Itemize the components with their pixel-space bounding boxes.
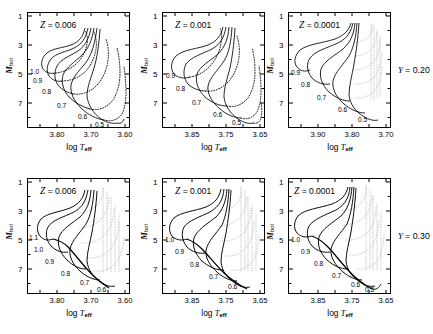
mass-label-0.7: 0.7 xyxy=(192,99,201,106)
row-label-y020: Y = 0.20 xyxy=(398,65,430,75)
yaxis-label-r2c2: Mbol xyxy=(139,224,149,239)
mass-label-0.5: 0.5 xyxy=(358,116,367,123)
panel-r1c3: Z = 0.0001 0.9 0.8 0.7 0.6 0.5 xyxy=(288,12,391,128)
ytick-r2c3-3: 3 xyxy=(279,207,283,216)
mass-label-1.0: 1.0 xyxy=(291,236,300,243)
ytick-r1c3-5: 5 xyxy=(279,70,283,79)
tracks-solid-r1c2 xyxy=(172,27,254,123)
ytick-r2c3-5: 5 xyxy=(279,236,283,245)
xtick-r1c2-2: 3.65 xyxy=(253,130,268,139)
mass-label-0.5: 0.5 xyxy=(232,119,241,126)
mass-label-0.6: 0.6 xyxy=(351,281,360,288)
xaxis-label-r2c1: log Teff xyxy=(66,308,91,318)
xtick-r1c1-2: 3.60 xyxy=(118,130,133,139)
ytick-r1c2-1: 1 xyxy=(153,12,157,21)
mass-label-0.9: 0.9 xyxy=(33,77,42,84)
mass-label-0.8: 0.8 xyxy=(301,81,310,88)
z-value: 0.006 xyxy=(55,20,76,30)
mass-label-0.6: 0.6 xyxy=(213,111,222,118)
z-value: 0.006 xyxy=(55,186,76,196)
mass-label-1.1: 1.1 xyxy=(29,234,38,241)
xtick-r2c2-0: 3.85 xyxy=(185,296,200,305)
ytick-r2c1-3: 3 xyxy=(18,207,22,216)
mass-label-0.6: 0.6 xyxy=(97,286,106,293)
figure-root: Z = 0.006 1.0 0.9 0.8 0.7 0.6 0.5 1 3 5 … xyxy=(0,0,433,334)
mass-label-0.8: 0.8 xyxy=(61,270,70,277)
xaxis-label-r1c3: log Teff xyxy=(327,142,352,152)
ytick-r1c2-3: 3 xyxy=(153,41,157,50)
xtick-r2c3-1: 3.75 xyxy=(345,296,360,305)
ytick-r1c2-7: 7 xyxy=(153,99,157,108)
mass-label-0.7: 0.7 xyxy=(332,272,341,279)
ytick-r2c1-1: 1 xyxy=(18,178,22,187)
row-label-y030: Y = 0.30 xyxy=(398,231,430,241)
xtick-r1c1-0: 3.80 xyxy=(50,130,65,139)
mass-label-0.7: 0.7 xyxy=(317,94,326,101)
panel-z-label-r2c1: Z = 0.006 xyxy=(40,186,76,196)
yaxis-label-r2c1: Mbol xyxy=(4,224,14,239)
ytick-r1c1-7: 7 xyxy=(18,99,22,108)
xtick-r1c2-0: 3.85 xyxy=(185,130,200,139)
xtick-r1c3-1: 3.80 xyxy=(345,130,360,139)
mass-label-0.6: 0.6 xyxy=(228,283,237,290)
panel-r2c1: Z = 0.006 1.1 1.0 0.9 0.8 0.7 0.6 xyxy=(27,178,130,294)
ytick-r2c3-7: 7 xyxy=(279,265,283,274)
mass-label-0.5: 0.5 xyxy=(95,121,104,128)
mass-label-0.8: 0.8 xyxy=(176,85,185,92)
z-value: 0.0001 xyxy=(309,186,335,196)
xtick-r1c1-1: 3.70 xyxy=(84,130,99,139)
xtick-r1c3-0: 3.90 xyxy=(311,130,326,139)
yaxis-label-r1c2: Mbol xyxy=(139,58,149,73)
z-value: 0.001 xyxy=(190,186,211,196)
ytick-r2c2-3: 3 xyxy=(153,207,157,216)
tracks-faint-dotted-r2c3 xyxy=(343,186,384,270)
mass-label-0.8: 0.8 xyxy=(42,88,51,95)
ytick-r1c1-3: 3 xyxy=(18,41,22,50)
mass-label-0.9: 0.9 xyxy=(175,248,184,255)
ytick-r1c1-1: 1 xyxy=(18,12,22,21)
ytick-r1c1-5: 5 xyxy=(18,70,22,79)
ytick-r1c3-7: 7 xyxy=(279,99,283,108)
mass-label-0.7: 0.7 xyxy=(80,279,89,286)
mass-label-0.9: 0.9 xyxy=(45,258,54,265)
mass-label-0.8: 0.8 xyxy=(314,260,323,267)
xtick-r1c3-2: 3.70 xyxy=(379,130,394,139)
xaxis-label-r2c2: log Teff xyxy=(201,308,226,318)
mass-label-1.0: 1.0 xyxy=(34,246,43,253)
tracks-faint-dotted-r2c2 xyxy=(218,187,259,271)
panel-r2c3: Z = 0.0001 1.0 0.9 0.8 0.7 0.6 0.5 xyxy=(288,178,391,294)
xaxis-label-r1c1: log Teff xyxy=(66,142,91,152)
xtick-r2c2-1: 3.75 xyxy=(219,296,234,305)
z-value: 0.001 xyxy=(190,20,211,30)
xtick-r2c1-0: 3.80 xyxy=(50,296,65,305)
tracks-solid-r1c3 xyxy=(295,23,378,120)
ytick-r2c2-7: 7 xyxy=(153,265,157,274)
mass-label-0.9: 0.9 xyxy=(291,69,300,76)
xtick-r2c1-1: 3.70 xyxy=(84,296,99,305)
panel-z-label-r2c3: Z = 0.0001 xyxy=(294,186,335,196)
ytick-r2c3-1: 1 xyxy=(279,178,283,187)
xtick-r1c2-1: 3.75 xyxy=(219,130,234,139)
mass-label-1.0: 1.0 xyxy=(165,236,174,243)
xtick-r2c2-2: 3.65 xyxy=(253,296,268,305)
ytick-r2c2-1: 1 xyxy=(153,178,157,187)
mass-label-1.0: 1.0 xyxy=(30,68,39,75)
mass-label-0.9: 0.9 xyxy=(301,248,310,255)
mass-label-0.8: 0.8 xyxy=(190,261,199,268)
ytick-r1c2-5: 5 xyxy=(153,70,157,79)
panel-r2c2: Z = 0.001 1.0 0.9 0.8 0.7 0.6 xyxy=(162,178,265,294)
mass-label-0.6: 0.6 xyxy=(78,113,87,120)
tracks-faint-dotted-r2c1 xyxy=(77,188,124,272)
ytick-r1c3-1: 1 xyxy=(279,12,283,21)
mass-label-0.7: 0.7 xyxy=(57,102,66,109)
xtick-r2c3-0: 3.85 xyxy=(311,296,326,305)
yaxis-label-r1c1: Mbol xyxy=(4,58,14,73)
mass-label-0.9: 0.9 xyxy=(166,72,175,79)
ytick-r2c1-5: 5 xyxy=(18,236,22,245)
tracks-tail-r1c1 xyxy=(118,119,124,123)
yaxis-label-r2c3: Mbol xyxy=(265,224,275,239)
ytick-r2c2-5: 5 xyxy=(153,236,157,245)
xaxis-label-r1c2: log Teff xyxy=(201,142,226,152)
panel-r1c1: Z = 0.006 1.0 0.9 0.8 0.7 0.6 0.5 xyxy=(27,12,130,128)
xtick-r2c1-2: 3.60 xyxy=(118,296,133,305)
